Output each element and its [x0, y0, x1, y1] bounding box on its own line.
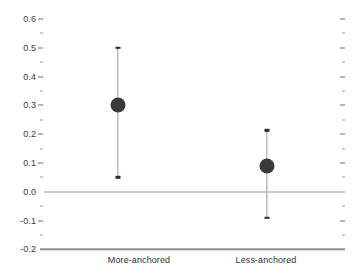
ytick-major-left	[38, 220, 43, 221]
ytick-minor-right	[342, 177, 345, 178]
ytick-major-left	[38, 47, 43, 48]
ytick-minor-left	[40, 148, 43, 149]
ytick-major-right	[340, 47, 345, 48]
ytick-minor-right	[342, 206, 345, 207]
ytick-minor-right	[342, 119, 345, 120]
ytick-major-right	[340, 105, 345, 106]
zero-reference-line	[44, 191, 345, 192]
ytick-major-left	[38, 19, 43, 20]
xaxis-category-label-less-anchored: Less-anchored	[236, 255, 297, 265]
ytick-minor-right	[342, 235, 345, 236]
errorbar-cap-lower-less-anchored	[265, 217, 270, 219]
errorbar-cap-lower-more-anchored	[116, 176, 121, 178]
ytick-label: 0.2	[23, 129, 36, 139]
ytick-major-right	[340, 163, 345, 164]
ytick-label: 0.0	[23, 187, 36, 197]
ytick-major-right	[340, 134, 345, 135]
errorbar-line-less-anchored	[266, 130, 267, 218]
ytick-major-left	[38, 105, 43, 106]
x-axis-baseline	[40, 249, 345, 250]
ytick-major-left	[38, 163, 43, 164]
ytick-label: -0.1	[20, 216, 36, 226]
plot-area: 0.6 0.5 0.4 0.3 0.2 0.1 0.0 -0.1 -0.2	[0, 0, 362, 276]
ytick-label: 0.5	[23, 43, 36, 53]
point-marker-less-anchored	[260, 158, 275, 173]
ytick-label: 0.6	[23, 14, 36, 24]
ytick-label: -0.2	[20, 244, 36, 254]
ytick-minor-left	[40, 62, 43, 63]
ytick-minor-left	[40, 177, 43, 178]
ytick-minor-left	[40, 91, 43, 92]
errorbar-cap-upper-more-anchored	[116, 47, 121, 49]
ytick-minor-left	[40, 119, 43, 120]
ytick-major-left	[38, 134, 43, 135]
errorbar-cap-upper-less-anchored	[265, 129, 270, 131]
ytick-minor-right	[342, 148, 345, 149]
ytick-major-right	[340, 19, 345, 20]
ytick-label: 0.4	[23, 72, 36, 82]
ytick-major-left	[38, 76, 43, 77]
chart-container: 0.6 0.5 0.4 0.3 0.2 0.1 0.0 -0.1 -0.2	[0, 0, 362, 276]
xaxis-category-label-more-anchored: More-anchored	[108, 255, 170, 265]
ytick-minor-right	[342, 33, 345, 34]
ytick-minor-left	[40, 33, 43, 34]
point-marker-more-anchored	[111, 98, 126, 113]
ytick-label: 0.3	[23, 100, 36, 110]
ytick-major-right	[340, 220, 345, 221]
ytick-label: 0.1	[23, 158, 36, 168]
ytick-major-right	[340, 76, 345, 77]
ytick-minor-left	[40, 206, 43, 207]
ytick-minor-right	[342, 91, 345, 92]
ytick-minor-right	[342, 62, 345, 63]
ytick-minor-left	[40, 235, 43, 236]
